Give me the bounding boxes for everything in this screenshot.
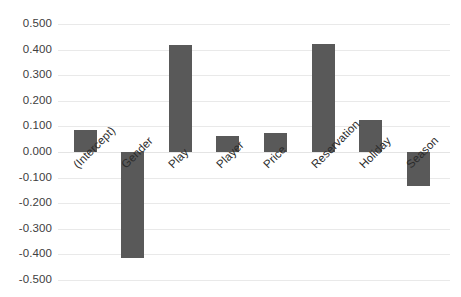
bar — [169, 45, 192, 152]
bar — [312, 44, 335, 152]
bar-chart: 0.5000.4000.3000.2000.1000.000-0.100-0.2… — [0, 0, 461, 297]
